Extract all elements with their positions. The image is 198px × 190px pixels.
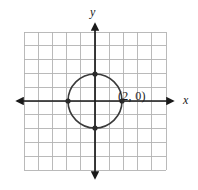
coordinate-plane-figure: y x (2, 0) bbox=[0, 0, 198, 190]
point-0-2 bbox=[92, 71, 97, 76]
point-neg2-0 bbox=[65, 98, 70, 103]
x-axis-label: x bbox=[183, 94, 188, 106]
graph-canvas bbox=[0, 0, 198, 190]
point-0-neg2 bbox=[92, 125, 97, 130]
point-coordinate-label: (2, 0) bbox=[118, 90, 146, 102]
y-axis-label: y bbox=[90, 6, 95, 18]
